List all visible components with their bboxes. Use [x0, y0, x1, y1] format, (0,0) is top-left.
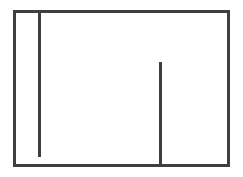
line-diagram — [0, 0, 243, 177]
diagram-canvas — [0, 0, 243, 177]
canvas-background — [0, 0, 243, 177]
